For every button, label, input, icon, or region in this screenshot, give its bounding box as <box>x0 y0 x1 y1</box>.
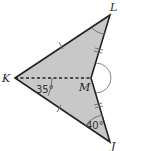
label-k: K <box>1 72 11 85</box>
geometry-diagram: L K M J 35° 40° <box>0 0 156 151</box>
angle-label-k: 35° <box>36 84 54 95</box>
label-j: J <box>109 140 116 151</box>
angle-label-j: 40° <box>86 120 104 131</box>
angle-arc-m-reflex <box>96 63 111 93</box>
label-m: M <box>78 81 91 94</box>
label-l: L <box>109 1 117 14</box>
